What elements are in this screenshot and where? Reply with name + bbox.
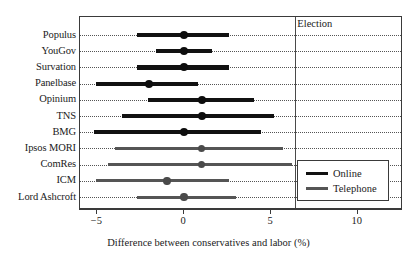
estimate-point — [180, 31, 188, 39]
poll-difference-chart: PopulusYouGovSurvationPanelbaseOpiniumTN… — [0, 0, 417, 261]
legend-swatch-online — [306, 172, 328, 175]
x-axis-title: Difference between conservatives and lab… — [0, 237, 417, 249]
estimate-point — [198, 145, 205, 152]
estimate-point — [180, 63, 188, 71]
election-annotation-label: Election — [297, 18, 332, 29]
data-row — [80, 29, 401, 42]
estimate-point — [163, 177, 170, 184]
x-tick-label: 10 — [352, 215, 363, 227]
x-tick-mark — [357, 209, 358, 214]
estimate-point — [198, 96, 206, 104]
gridline — [80, 67, 401, 68]
estimate-point — [145, 80, 153, 88]
legend-label-telephone: Telephone — [333, 183, 377, 194]
x-tick-mark — [270, 209, 271, 214]
gridline — [80, 51, 401, 52]
y-tick-label-icm: ICM — [0, 174, 76, 185]
legend-label-online: Online — [333, 168, 362, 179]
data-row — [80, 126, 401, 139]
y-axis-labels: PopulusYouGovSurvationPanelbaseOpiniumTN… — [0, 16, 76, 209]
x-axis-line — [79, 209, 402, 210]
y-tick-label-survation: Survation — [0, 61, 76, 72]
y-tick-label-panelbase: Panelbase — [0, 77, 76, 88]
data-row — [80, 45, 401, 58]
y-tick-label-ipsos-mori: Ipsos MORI — [0, 142, 76, 153]
y-tick-label-opinium: Opinium — [0, 93, 76, 104]
y-tick-label-yougov: YouGov — [0, 45, 76, 56]
legend-swatch-telephone — [306, 187, 328, 189]
estimate-point — [180, 193, 187, 200]
gridline — [80, 35, 401, 36]
legend-item-online: Online — [298, 166, 388, 181]
y-tick-label-bmg: BMG — [0, 126, 76, 137]
estimate-point — [198, 112, 206, 120]
x-axis: −50510 — [79, 209, 402, 239]
x-tick-label: 0 — [181, 215, 186, 227]
data-row — [80, 142, 401, 155]
data-row — [80, 61, 401, 74]
x-tick-mark — [183, 209, 184, 214]
estimate-point — [198, 161, 205, 168]
y-tick-label-lord-ashcroft: Lord Ashcroft — [0, 191, 76, 202]
estimate-point — [180, 47, 188, 55]
data-row — [80, 94, 401, 107]
estimate-point — [180, 128, 188, 136]
data-row — [80, 78, 401, 91]
x-tick-label: −5 — [91, 215, 102, 227]
x-tick-label: 5 — [267, 215, 272, 227]
data-row — [80, 110, 401, 123]
y-tick-label-comres: ComRes — [0, 158, 76, 169]
y-tick-label-tns: TNS — [0, 110, 76, 121]
legend: OnlineTelephone — [297, 160, 389, 201]
confidence-interval-bar — [94, 130, 261, 134]
x-tick-mark — [96, 209, 97, 214]
legend-item-telephone: Telephone — [298, 181, 388, 196]
y-tick-label-populus: Populus — [0, 29, 76, 40]
